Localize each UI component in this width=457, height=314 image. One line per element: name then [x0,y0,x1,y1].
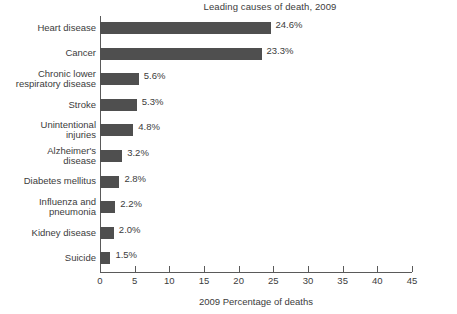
x-axis-tick-label: 30 [293,275,323,286]
x-axis-line [100,272,412,273]
bar [100,201,115,213]
bar-value-label: 2.0% [119,224,141,235]
bar-value-label: 1.5% [115,249,137,260]
bar [100,124,133,136]
x-axis-tick-label: 20 [224,275,254,286]
category-label: Alzheimer'sdisease [0,146,96,167]
bar-row: 3.2% [100,144,412,170]
x-axis-tick-label: 10 [154,275,184,286]
category-label-line: pneumonia [0,207,96,218]
x-axis-tick-label: 5 [120,275,150,286]
category-label-line: Heart disease [0,23,96,34]
category-label: Cancer [0,48,96,59]
bar-value-label: 5.6% [144,70,166,81]
bar-row: 4.8% [100,118,412,144]
x-axis-tick-label: 45 [397,275,427,286]
category-label: Stroke [0,100,96,111]
category-label-line: injuries [0,130,96,141]
bar [100,99,137,111]
bar-value-label: 5.3% [142,96,164,107]
bar [100,73,139,85]
x-axis-tick-label: 15 [189,275,219,286]
bar-value-label: 24.6% [276,19,303,30]
category-label-line: Diabetes mellitus [0,176,96,187]
bar-row: 24.6% [100,16,412,42]
category-label-line: Stroke [0,100,96,111]
x-axis-tick [204,266,205,272]
category-label-line: respiratory disease [0,79,96,90]
x-axis-tick [308,266,309,272]
bar-value-label: 3.2% [127,147,149,158]
x-axis-tick [169,266,170,272]
bar [100,176,119,188]
category-label: Diabetes mellitus [0,176,96,187]
bar [100,252,110,264]
category-label-line: disease [0,156,96,167]
x-axis-tick [377,266,378,272]
bar-row: 23.3% [100,42,412,68]
bar-value-label: 4.8% [138,121,160,132]
x-axis-tick [273,266,274,272]
bar [100,227,114,239]
category-label: Influenza andpneumonia [0,197,96,218]
bar-row: 5.6% [100,67,412,93]
bar-row: 1.5% [100,246,412,272]
bar [100,48,262,60]
bar-row: 2.8% [100,170,412,196]
category-label-line: Kidney disease [0,228,96,239]
chart-title: Leading causes of death, 2009 [150,1,390,12]
bar-chart: Leading causes of death, 2009 24.6%23.3%… [0,0,457,314]
x-axis-tick-label: 0 [85,275,115,286]
bar [100,150,122,162]
category-label: Unintentionalinjuries [0,120,96,141]
x-axis-title: 2009 Percentage of deaths [100,296,412,307]
x-axis-tick [239,266,240,272]
category-label: Kidney disease [0,228,96,239]
bar-value-label: 23.3% [267,45,294,56]
x-axis-tick [412,266,413,272]
category-label: Chronic lowerrespiratory disease [0,69,96,90]
bar-value-label: 2.8% [124,173,146,184]
category-label-line: Suicide [0,253,96,264]
bar-row: 5.3% [100,93,412,119]
category-label: Suicide [0,253,96,264]
bar [100,22,271,34]
x-axis-tick-label: 40 [362,275,392,286]
x-axis-tick-label: 35 [328,275,358,286]
x-axis-tick-label: 25 [258,275,288,286]
category-label: Heart disease [0,23,96,34]
bar-row: 2.2% [100,195,412,221]
category-label-line: Cancer [0,48,96,59]
x-axis-tick [343,266,344,272]
x-axis-tick [135,266,136,272]
bar-value-label: 2.2% [120,198,142,209]
bar-row: 2.0% [100,221,412,247]
